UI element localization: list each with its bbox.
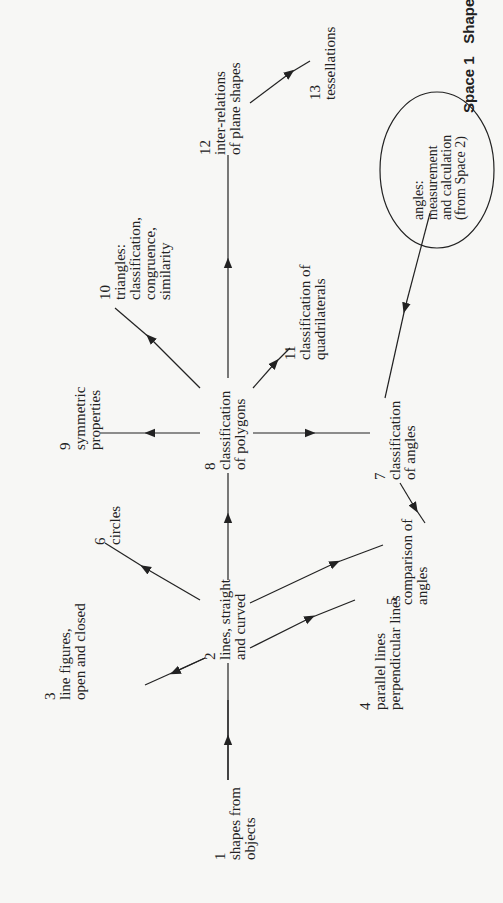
node-label: parallel lines xyxy=(373,595,388,710)
node-label: perpendicular lines xyxy=(388,595,403,710)
node-label: triangles: xyxy=(113,217,128,300)
node-label: and calculation xyxy=(440,135,454,220)
node-9: 9 symmetric properties xyxy=(58,387,103,450)
node-number: 8 xyxy=(203,391,218,470)
node-label: open and closed xyxy=(73,603,88,700)
node-label: congruence, xyxy=(143,217,158,300)
node-number: 5 xyxy=(385,519,400,605)
node-label: lines, straight xyxy=(218,579,233,660)
node-label: quadrilaterals xyxy=(313,265,328,360)
node-number: 1 xyxy=(213,787,228,860)
node-label: tessellations xyxy=(323,27,338,100)
node-label: and curved xyxy=(233,579,248,660)
node-3: 3 line figures, open and closed xyxy=(43,603,88,700)
node-label: classification xyxy=(388,401,403,480)
node-label: shapes from xyxy=(228,787,243,860)
space-label: Space 1 xyxy=(460,56,477,113)
node-label: of plane shapes xyxy=(228,63,243,155)
node-label: of polygons xyxy=(233,391,248,470)
node-number: 13 xyxy=(308,27,323,100)
node-label: (from Space 2) xyxy=(454,135,468,220)
node-label: comparison of xyxy=(400,519,415,605)
external-node-angles: angles: measurement and calculation (fro… xyxy=(412,135,468,220)
node-number: 3 xyxy=(43,603,58,700)
node-label: classification xyxy=(218,391,233,470)
node-label: objects xyxy=(243,787,258,860)
node-13: 13 tessellations xyxy=(308,27,338,100)
node-label: circles xyxy=(108,506,123,545)
node-label: similarity xyxy=(158,217,173,300)
node-7: 7 classification of angles xyxy=(373,401,418,480)
node-label: angles: xyxy=(412,135,426,220)
node-4: 4 parallel lines perpendicular lines xyxy=(358,595,403,710)
node-number: 4 xyxy=(358,595,373,710)
node-10: 10 triangles: classification, congruence… xyxy=(98,217,173,300)
node-label: line figures, xyxy=(58,603,73,700)
node-label: symmetric xyxy=(73,387,88,450)
node-5: 5 comparison of angles xyxy=(385,519,430,605)
node-2: 2 lines, straight and curved xyxy=(203,579,248,660)
node-label: properties xyxy=(88,387,103,450)
node-label: classification of xyxy=(298,265,313,360)
node-number: 2 xyxy=(203,579,218,660)
node-number: 6 xyxy=(93,506,108,545)
node-8: 8 classification of polygons xyxy=(203,391,248,470)
node-number: 12 xyxy=(198,63,213,155)
node-12: 12 inter-relations of plane shapes xyxy=(198,63,243,155)
node-number: 7 xyxy=(373,401,388,480)
page-header: Space 1 Shape xyxy=(460,0,477,113)
node-label: of angles xyxy=(403,401,418,480)
node-1: 1 shapes from objects xyxy=(213,787,258,860)
node-number: 10 xyxy=(98,217,113,300)
space-title: Shape xyxy=(460,0,477,44)
node-11: 11 classification of quadrilaterals xyxy=(283,265,328,360)
node-number: 11 xyxy=(283,265,298,360)
node-label: classification, xyxy=(128,217,143,300)
node-6: 6 circles xyxy=(93,506,123,545)
node-label: inter-relations xyxy=(213,63,228,155)
node-number: 9 xyxy=(58,387,73,450)
concept-map: Space 1 Shape 1 shapes from objects 2 li… xyxy=(0,0,503,903)
node-label: angles xyxy=(415,519,430,605)
node-label: measurement xyxy=(426,135,440,220)
